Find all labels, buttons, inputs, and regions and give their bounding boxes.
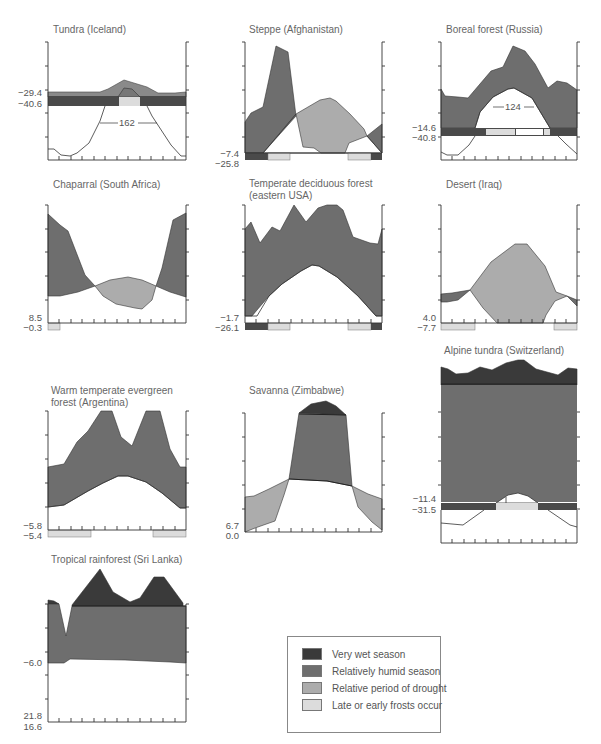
legend-item-humid: Relatively humid season bbox=[302, 664, 440, 678]
panel-chaparral bbox=[48, 213, 186, 330]
swatch-icon bbox=[302, 665, 322, 677]
legend-label: Very wet season bbox=[332, 649, 405, 660]
axis-label: −31.5 bbox=[396, 505, 436, 515]
axis-label: 16.6 bbox=[2, 722, 42, 732]
panel-title-warm: Warm temperate evergreen forest (Argenti… bbox=[51, 385, 173, 409]
panel-title-chaparral: Chaparral (South Africa) bbox=[53, 179, 160, 191]
legend-label: Late or early frosts occur bbox=[332, 700, 442, 711]
panel-tundra bbox=[48, 80, 186, 156]
axis-label: −0.3 bbox=[2, 323, 42, 333]
axis-label: 21.8 bbox=[2, 711, 42, 721]
panel-title-savanna: Savanna (Zimbabwe) bbox=[249, 385, 344, 397]
panel-warm bbox=[48, 411, 186, 537]
panel-title-steppe: Steppe (Afghanistan) bbox=[249, 24, 343, 36]
annotation-boreal: 124 bbox=[504, 102, 522, 112]
panel-desert bbox=[441, 244, 577, 330]
legend-item-very-wet: Very wet season bbox=[302, 647, 405, 661]
panel-title-tundra: Tundra (Iceland) bbox=[53, 24, 126, 36]
panel-savanna bbox=[245, 401, 382, 532]
axis-label: −25.8 bbox=[199, 159, 239, 169]
panel-title-alpine: Alpine tundra (Switzerland) bbox=[444, 345, 564, 357]
panel-tropical bbox=[48, 569, 186, 663]
axis-label: −29.4 bbox=[2, 88, 42, 98]
swatch-icon bbox=[302, 648, 322, 660]
legend-item-drought: Relative period of drought bbox=[302, 681, 447, 695]
panel-title-boreal: Boreal forest (Russia) bbox=[446, 24, 543, 36]
swatch-icon bbox=[302, 682, 322, 694]
panel-title-temperate: Temperate deciduous forest (eastern USA) bbox=[249, 178, 372, 202]
panel-alpine bbox=[441, 360, 577, 527]
axis-label: −26.1 bbox=[199, 323, 239, 333]
panel-steppe bbox=[245, 46, 382, 160]
axis-label: 0.0 bbox=[199, 531, 239, 541]
axis-label: −11.4 bbox=[396, 494, 436, 504]
annotation-tundra: 162 bbox=[118, 118, 136, 128]
axis-label: −6.0 bbox=[2, 658, 42, 668]
panel-title-tropical: Tropical rainforest (Sri Lanka) bbox=[51, 554, 182, 566]
legend: Very wet season Relatively humid season … bbox=[287, 636, 441, 733]
legend-label: Relative period of drought bbox=[332, 683, 447, 694]
panel-temperate bbox=[245, 205, 382, 330]
panel-title-desert: Desert (Iraq) bbox=[446, 179, 502, 191]
axis-label: −40.8 bbox=[396, 133, 436, 143]
axis-label: −7.7 bbox=[396, 323, 436, 333]
swatch-icon bbox=[302, 699, 322, 711]
axis-label: −40.6 bbox=[2, 99, 42, 109]
legend-item-frost: Late or early frosts occur bbox=[302, 698, 442, 712]
axis-label: −5.4 bbox=[2, 531, 42, 541]
legend-label: Relatively humid season bbox=[332, 666, 440, 677]
